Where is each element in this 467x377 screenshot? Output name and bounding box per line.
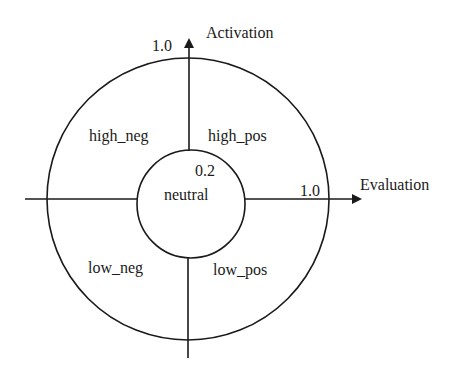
- inner-circle: [137, 150, 245, 258]
- quadrant-low-neg-label: low_neg: [88, 259, 143, 277]
- neutral-region-label: neutral: [164, 186, 209, 203]
- activation-max-label: 1.0: [152, 37, 172, 54]
- quadrant-high-pos-label: high_pos: [208, 127, 267, 145]
- inner-radius-label: 0.2: [195, 162, 215, 179]
- activation-evaluation-diagram: Activation 1.0 Evaluation 1.0 high_neg h…: [0, 0, 467, 377]
- activation-axis-label: Activation: [206, 24, 274, 41]
- evaluation-axis-label: Evaluation: [360, 176, 429, 193]
- evaluation-max-label: 1.0: [300, 182, 320, 199]
- quadrant-high-neg-label: high_neg: [89, 127, 149, 145]
- quadrant-low-pos-label: low_pos: [213, 261, 267, 279]
